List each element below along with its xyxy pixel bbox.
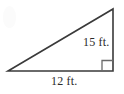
vertical-leg-label: 15 ft. (83, 36, 110, 48)
base-leg-label: 12 ft. (51, 75, 78, 87)
triangle-figure: 15 ft. 12 ft. (0, 0, 124, 94)
right-angle-marker-icon (102, 61, 113, 72)
